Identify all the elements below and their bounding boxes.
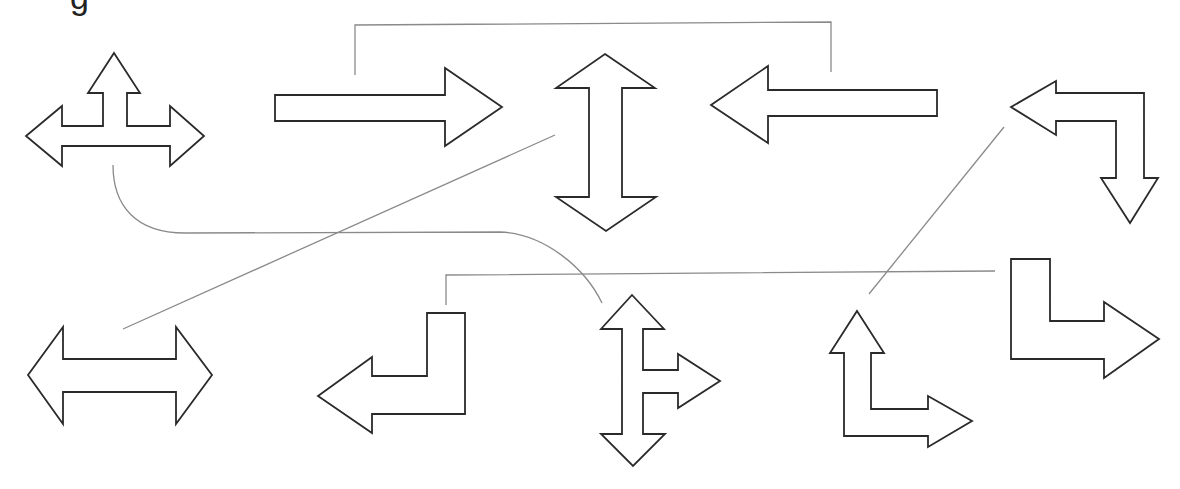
arrow-right-icon xyxy=(275,68,502,146)
l-arrow-left-down-icon xyxy=(1011,81,1158,223)
connector-layer xyxy=(113,22,1004,329)
l-arrow-up-right-icon xyxy=(830,311,972,447)
hook-arrow-left-icon xyxy=(318,313,465,433)
double-arrow-horizontal-icon xyxy=(28,327,212,424)
clipped-caption-fragment: g xyxy=(70,0,89,17)
bracket-bottom-connector xyxy=(446,271,995,305)
t-arrow-up-down-right-icon xyxy=(601,295,720,466)
diagonal-right-connector xyxy=(869,127,1004,294)
l-arrow-down-right-icon xyxy=(1011,259,1159,378)
shape-layer xyxy=(26,53,1159,466)
curve-connector xyxy=(113,165,602,303)
arrow-diagram: g xyxy=(0,0,1180,489)
arrow-left-icon xyxy=(711,66,937,143)
double-arrow-vertical-icon xyxy=(556,54,656,231)
t-arrow-left-up-right-icon xyxy=(26,53,204,166)
diagram-canvas xyxy=(0,0,1180,489)
